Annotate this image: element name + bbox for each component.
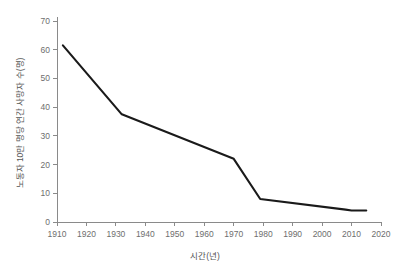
x-tick-label: 1970	[224, 229, 243, 239]
y-tick-label: 40	[41, 102, 51, 112]
chart-figure: 010203040506070 191019201930194019501960…	[0, 0, 411, 271]
x-tick-label: 1930	[106, 229, 125, 239]
x-tick-label: 1910	[48, 229, 67, 239]
y-tick-label: 70	[41, 16, 51, 26]
x-tick-label: 2010	[342, 229, 361, 239]
x-axis-title: 시간(년)	[190, 251, 220, 261]
x-tick-label: 2000	[313, 229, 332, 239]
line-chart: 010203040506070 191019201930194019501960…	[0, 0, 411, 271]
x-tick-label: 2020	[372, 229, 391, 239]
y-axis-title: 노동자 10만 명당 연간 사망자 수(명)	[15, 57, 25, 188]
x-tick-label: 1950	[165, 229, 184, 239]
x-tick-label: 1920	[77, 229, 96, 239]
y-tick-label: 0	[45, 217, 50, 227]
y-tick-label: 60	[41, 45, 51, 55]
y-tick-label: 50	[41, 73, 51, 83]
x-tick-label: 1980	[254, 229, 273, 239]
x-tick-label: 1960	[195, 229, 214, 239]
x-tick-label: 1940	[136, 229, 155, 239]
y-tick-label: 20	[41, 160, 51, 170]
y-tick-label: 30	[41, 131, 51, 141]
y-tick-label: 10	[41, 188, 51, 198]
x-tick-label: 1990	[283, 229, 302, 239]
